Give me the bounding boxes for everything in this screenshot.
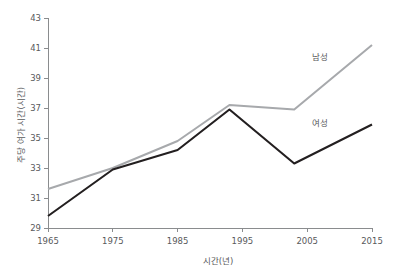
x-tick-label: 2005 [296,236,318,246]
y-axis-ticks: 2931333537394143 [30,13,48,233]
y-tick-label: 33 [30,163,41,173]
data-series [48,45,372,216]
y-tick-label: 43 [30,13,41,23]
chart-container: 2931333537394143 19651975198519952005201… [0,0,403,277]
y-tick-label: 31 [30,193,41,203]
plot-area: 2931333537394143 19651975198519952005201… [30,13,383,246]
series-label-남성: 남성 [312,52,328,62]
y-axis-title: 주당 여가 시간(시간) [16,87,26,163]
y-tick-label: 41 [30,43,41,53]
y-tick-label: 37 [30,103,41,113]
leisure-hours-line-chart: 2931333537394143 19651975198519952005201… [0,0,403,277]
series-labels: 남성여성 [312,52,328,128]
series-label-여성: 여성 [312,118,328,128]
x-tick-label: 1985 [167,236,189,246]
x-axis-title: 시간(년) [203,256,234,266]
y-tick-label: 39 [30,73,41,83]
x-tick-label: 2015 [361,236,383,246]
x-axis-ticks: 196519751985199520052015 [37,228,383,246]
x-tick-label: 1965 [37,236,59,246]
series-line-남성 [48,45,372,189]
y-tick-label: 35 [30,133,41,143]
x-tick-label: 1995 [232,236,254,246]
x-tick-label: 1975 [102,236,124,246]
y-tick-label: 29 [30,223,41,233]
